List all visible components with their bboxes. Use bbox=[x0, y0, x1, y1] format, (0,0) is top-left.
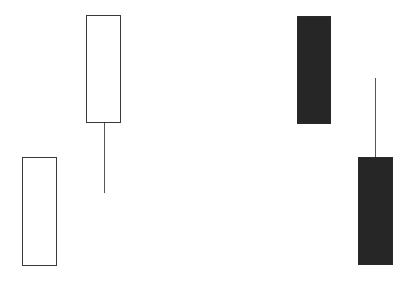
white-candle-1 bbox=[22, 157, 57, 266]
white-candle-2-lower-wick bbox=[104, 123, 105, 193]
black-candle-2-upper-wick bbox=[375, 78, 376, 158]
white-candle-2 bbox=[86, 15, 121, 123]
black-candle-1 bbox=[297, 16, 331, 124]
black-candle-2 bbox=[358, 157, 393, 265]
